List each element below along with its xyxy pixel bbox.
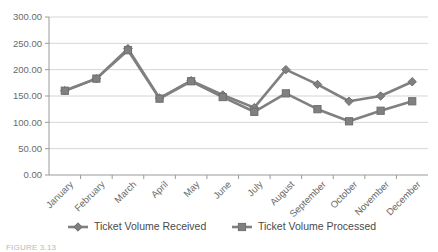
y-tick-label: 100.00 bbox=[13, 117, 42, 128]
data-point-square bbox=[188, 78, 195, 85]
data-point-square bbox=[93, 75, 100, 82]
data-point-square bbox=[251, 108, 258, 115]
x-tick-label: March bbox=[112, 179, 138, 205]
y-tick-label: 0.00 bbox=[24, 169, 43, 180]
x-tick-label: October bbox=[328, 179, 360, 211]
x-tick-label: April bbox=[149, 179, 170, 200]
x-tick-label: June bbox=[211, 179, 233, 201]
data-point-square bbox=[409, 98, 416, 105]
data-point-square bbox=[282, 90, 289, 97]
y-axis-ticks: 300.00250.00200.00150.00100.0050.000.00 bbox=[13, 11, 49, 180]
x-tick-label: December bbox=[384, 179, 423, 218]
x-tick-label: July bbox=[245, 178, 265, 198]
data-point-square bbox=[219, 93, 226, 100]
y-tick-label: 250.00 bbox=[13, 38, 42, 49]
x-tick-label: May bbox=[181, 178, 202, 199]
y-tick-label: 300.00 bbox=[13, 11, 42, 22]
ticket-volume-line-chart: 300.00250.00200.00150.00100.0050.000.00 … bbox=[0, 0, 438, 252]
chart-canvas: 300.00250.00200.00150.00100.0050.000.00 … bbox=[0, 0, 438, 252]
y-tick-label: 200.00 bbox=[13, 64, 42, 75]
x-tick-label: August bbox=[268, 178, 297, 207]
data-point-square bbox=[314, 106, 321, 113]
data-point-square bbox=[377, 107, 384, 114]
data-point-square bbox=[238, 223, 245, 230]
y-tick-label: 150.00 bbox=[13, 90, 42, 101]
data-point-square bbox=[124, 47, 131, 54]
x-tick-label: January bbox=[44, 178, 76, 210]
figure-caption: FIGURE 3.13 bbox=[6, 243, 56, 252]
data-point-diamond bbox=[74, 223, 82, 231]
data-point-square bbox=[345, 118, 352, 125]
legend-label: Ticket Volume Processed bbox=[258, 220, 376, 232]
x-tick-label: February bbox=[72, 178, 107, 213]
data-point-square bbox=[156, 95, 163, 102]
y-tick-label: 50.00 bbox=[18, 143, 42, 154]
legend-label: Ticket Volume Received bbox=[94, 220, 206, 232]
chart-legend: Ticket Volume ReceivedTicket Volume Proc… bbox=[68, 220, 376, 232]
x-axis-ticks: JanuaryFebruaryMarchAprilMayJuneJulyAugu… bbox=[44, 175, 423, 219]
data-point-square bbox=[61, 87, 68, 94]
